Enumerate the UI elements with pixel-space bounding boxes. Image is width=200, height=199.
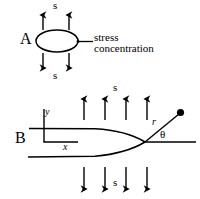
panel-b-graphics bbox=[28, 99, 196, 189]
crack-lower-flank bbox=[28, 142, 145, 157]
panel-a-graphics bbox=[36, 15, 93, 68]
axis-label-x: x bbox=[63, 142, 67, 153]
stress-label-a-bottom: s bbox=[53, 70, 57, 82]
stress-label-b-top: s bbox=[113, 82, 117, 94]
callout-line-concentration: concentration bbox=[94, 43, 154, 54]
angle-label-theta: θ bbox=[160, 129, 165, 141]
field-point-dot bbox=[177, 109, 184, 116]
panel-letter-a: A bbox=[20, 31, 32, 48]
radius-label-r: r bbox=[152, 117, 156, 128]
figure-root: A s s stress concentration B y x s s r θ bbox=[0, 0, 200, 199]
stress-label-b-bottom: s bbox=[113, 177, 117, 189]
elliptical-hole-shape bbox=[36, 30, 78, 52]
crack-upper-flank bbox=[29, 129, 145, 143]
axis-label-y: y bbox=[45, 107, 49, 118]
stress-label-a-top: s bbox=[53, 0, 57, 12]
panel-letter-b: B bbox=[15, 130, 26, 147]
callout-anchor-dot bbox=[77, 40, 80, 43]
